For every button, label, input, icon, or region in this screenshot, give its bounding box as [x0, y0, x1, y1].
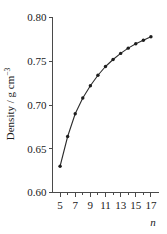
y-axis-tick-labels: 0.600.650.700.750.80 [27, 11, 47, 198]
data-point-marker [142, 39, 145, 42]
density-vs-n-line-chart: 0.600.650.700.750.80 57911131517 Density… [0, 0, 167, 234]
x-axis-tick-marks [60, 193, 151, 197]
x-tick-label: 13 [115, 199, 127, 211]
chart-page: 0.600.650.700.750.80 57911131517 Density… [0, 0, 167, 234]
data-point-marker [111, 58, 114, 61]
data-point-marker [58, 165, 61, 168]
data-point-marker [89, 84, 92, 87]
x-axis-group: 57911131517 [53, 193, 159, 211]
density-series-markers [58, 35, 152, 168]
data-point-marker [149, 35, 152, 38]
y-tick-label: 0.80 [27, 11, 47, 23]
data-point-marker [127, 46, 130, 49]
data-series-group [58, 35, 152, 168]
density-series-line [60, 37, 151, 167]
data-point-marker [104, 65, 107, 68]
data-point-marker [81, 96, 84, 99]
y-axis-title: Density / g cm−3 [3, 68, 16, 141]
y-axis-group: 0.600.650.700.750.80 [27, 11, 52, 198]
chart-svg: 0.600.650.700.750.80 57911131517 Density… [0, 0, 167, 234]
data-point-marker [74, 112, 77, 115]
y-tick-label: 0.70 [27, 99, 47, 111]
data-point-marker [96, 74, 99, 77]
data-point-marker [66, 135, 69, 138]
data-point-marker [134, 42, 137, 45]
x-tick-label: 5 [57, 199, 63, 211]
x-tick-label: 9 [88, 199, 94, 211]
x-tick-label: 11 [100, 199, 111, 211]
y-tick-label: 0.75 [27, 55, 47, 67]
y-axis-title-group: Density / g cm−3 [3, 68, 16, 141]
x-tick-label: 17 [145, 199, 157, 211]
x-tick-label: 15 [130, 199, 142, 211]
x-tick-label: 7 [72, 199, 78, 211]
x-axis-title: n [150, 216, 156, 228]
x-axis-tick-labels: 57911131517 [57, 199, 157, 211]
y-tick-label: 0.60 [27, 186, 47, 198]
y-tick-label: 0.65 [27, 143, 47, 155]
data-point-marker [119, 52, 122, 55]
